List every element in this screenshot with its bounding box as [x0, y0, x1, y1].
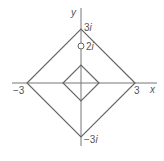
label-pos3: 3 [134, 85, 140, 96]
label-neg3i-number: −3 [84, 134, 96, 145]
label-3i: 3i [84, 22, 93, 33]
label-neg3i: −3i [84, 134, 98, 145]
complex-plane-diagram: y x 3i 2i −3 3 −3i [0, 0, 164, 161]
label-neg3i-imag: i [95, 134, 98, 145]
label-2i: 2i [86, 41, 95, 52]
open-point-2i [78, 43, 84, 49]
x-axis-label: x [149, 84, 156, 95]
y-axis-label: y [70, 7, 77, 18]
label-3i-imag: i [90, 22, 93, 33]
label-neg3: −3 [13, 85, 25, 96]
